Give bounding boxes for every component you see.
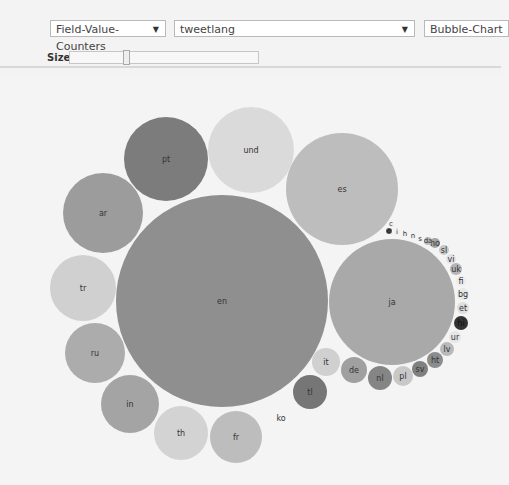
bubble-n[interactable]: n	[410, 232, 416, 240]
bubble-tr[interactable]: tr	[50, 255, 116, 321]
bubble-e[interactable]: e	[386, 227, 392, 235]
bubble-it[interactable]: it	[312, 348, 340, 376]
bubble-label: e	[387, 227, 391, 235]
bubble-ar[interactable]: ar	[63, 173, 143, 253]
bubble-in[interactable]: in	[101, 375, 159, 433]
bubble-label: s	[418, 235, 422, 243]
bubble-label: tr	[80, 284, 87, 293]
bubble-hi[interactable]: hi	[454, 316, 468, 330]
bubble-label: vi	[448, 255, 455, 264]
bubble-label: en	[217, 297, 227, 306]
bubble-da[interactable]: da	[424, 237, 433, 245]
bubble-label: ru	[91, 349, 99, 358]
bubble-th[interactable]: th	[154, 406, 208, 460]
bubble-fi[interactable]: fi	[456, 276, 466, 286]
bubble-ru[interactable]: ru	[65, 323, 125, 383]
bubble-und[interactable]: und	[208, 107, 294, 193]
bubble-s[interactable]: s	[417, 235, 423, 243]
bubble-label: sv	[416, 365, 425, 374]
bubble-bg[interactable]: bg	[457, 288, 469, 300]
bubble-label: in	[126, 400, 133, 409]
bubble-label: fr	[233, 433, 240, 442]
bubble-label: n	[411, 232, 415, 240]
bubble-label: bg	[458, 290, 468, 299]
bubble-sv[interactable]: sv	[412, 361, 428, 377]
bubble-label: nl	[376, 374, 383, 383]
bubble-ht[interactable]: ht	[427, 352, 443, 368]
bubble-label: th	[177, 429, 185, 438]
bubble-label: i	[396, 228, 398, 236]
bubble-nl[interactable]: nl	[368, 366, 392, 390]
bubble-label: ja	[387, 298, 395, 307]
bubble-label: hi	[457, 319, 464, 328]
bubble-label: c	[389, 220, 393, 228]
bubble-h[interactable]: h	[402, 230, 408, 238]
bubble-label: de	[349, 366, 359, 375]
bubble-label: tl	[307, 388, 312, 397]
bubble-label: pl	[399, 372, 406, 381]
bubble-es[interactable]: es	[286, 133, 398, 245]
bubble-et[interactable]: et	[457, 302, 469, 314]
bubble-label: it	[323, 358, 328, 367]
bubble-label: und	[243, 146, 258, 155]
bubble-i[interactable]: i	[394, 228, 400, 236]
bubble-label: ht	[431, 356, 439, 365]
bubble-fr[interactable]: fr	[210, 411, 262, 463]
bubble-ko[interactable]: ko	[271, 408, 291, 428]
bubble-label: ar	[99, 209, 108, 218]
bubble-label: h	[403, 230, 407, 238]
bubble-c[interactable]: c	[388, 220, 394, 228]
bubble-label: da	[424, 237, 433, 245]
bubble-lv[interactable]: lv	[440, 342, 454, 356]
bubble-ur[interactable]: ur	[449, 331, 461, 343]
bubble-label: fi	[458, 277, 463, 286]
bubble-label: uk	[451, 265, 461, 274]
bubble-vi[interactable]: vi	[446, 254, 456, 264]
bubble-label: sl	[441, 246, 447, 255]
bubble-pt[interactable]: pt	[124, 117, 208, 201]
bubble-ja[interactable]: ja	[329, 239, 455, 365]
bubble-label: ur	[451, 333, 460, 342]
bubble-de[interactable]: de	[341, 357, 367, 383]
bubble-en[interactable]: en	[116, 195, 328, 407]
bubble-label: pt	[162, 155, 170, 164]
bubble-sl[interactable]: sl	[439, 245, 449, 255]
bubble-label: lv	[444, 345, 451, 354]
bubble-tl[interactable]: tl	[293, 375, 327, 409]
bubble-label: et	[459, 304, 467, 313]
bubble-label: ko	[276, 414, 285, 423]
bubble-pl[interactable]: pl	[393, 366, 413, 386]
bubble-uk[interactable]: uk	[450, 263, 462, 275]
bubble-label: es	[337, 185, 346, 194]
